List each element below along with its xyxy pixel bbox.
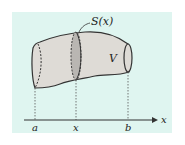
volume-label: V xyxy=(109,52,118,65)
axis-label: x xyxy=(161,114,167,125)
cross-section-label: S(x) xyxy=(91,15,113,28)
right-end-ellipse xyxy=(124,44,132,72)
slice-position-label: x xyxy=(73,122,79,133)
volume-cross-section-diagram: S(x) V x a x b xyxy=(0,0,185,145)
right-bound-label: b xyxy=(125,122,131,133)
left-bound-label: a xyxy=(32,122,38,133)
